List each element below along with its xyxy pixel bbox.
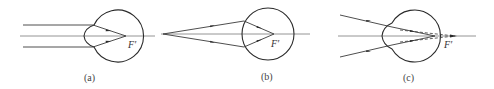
panel-caption: (b) [261, 71, 273, 83]
ray-upper [23, 25, 126, 36]
focus-label: F′ [270, 38, 280, 49]
arrow-icon [257, 26, 263, 29]
arrow-icon [450, 35, 457, 38]
arrow-icon [106, 41, 111, 43]
ray-extension-upper [400, 30, 455, 36]
arrow-icon [106, 29, 111, 31]
ray-lower [340, 36, 435, 57]
ray-lower [23, 36, 126, 47]
focus-label: F′ [127, 39, 137, 50]
panel-a: F′ (a) [20, 10, 155, 84]
eye-optics-diagram: F′ (a) F′ (b) F′ (c) [0, 0, 494, 89]
panel-c: F′ (c) [338, 10, 476, 84]
ray-upper [340, 15, 435, 36]
panel-b: F′ (b) [161, 8, 310, 83]
arrow-icon [257, 39, 263, 42]
panel-caption: (c) [403, 72, 414, 84]
panel-caption: (a) [84, 72, 95, 84]
focus-label: F′ [443, 39, 453, 50]
